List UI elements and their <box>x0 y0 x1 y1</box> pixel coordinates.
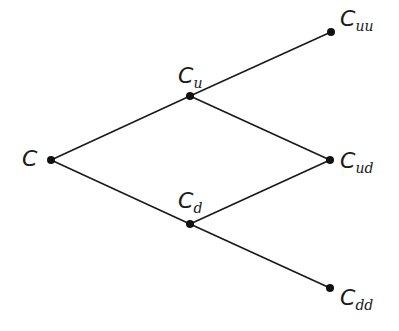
node-cuu <box>327 28 335 36</box>
label-cud: Cud <box>340 150 373 175</box>
label-cuu: Cuu <box>340 8 373 33</box>
node-c <box>47 156 55 164</box>
edge-c-cd <box>51 160 190 224</box>
label-c: C <box>22 148 37 170</box>
label-cu: Cu <box>178 65 202 90</box>
edge-cd-cdd <box>190 224 330 288</box>
label-cdd: Cdd <box>340 287 373 312</box>
edge-c-cu <box>51 96 190 160</box>
label-cd: Cd <box>178 190 202 215</box>
node-cdd <box>326 284 334 292</box>
edge-cd-cud <box>190 160 330 224</box>
edge-cu-cuu <box>190 32 331 96</box>
node-cud <box>326 156 334 164</box>
node-cd <box>186 220 194 228</box>
edge-cu-cud <box>190 96 330 160</box>
node-cu <box>186 92 194 100</box>
